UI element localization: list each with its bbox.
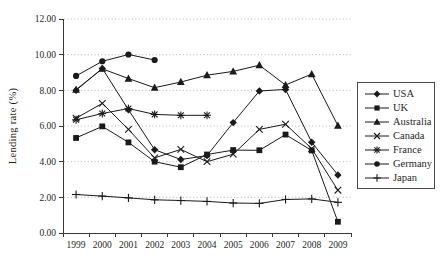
asterisk-marker-icon	[364, 144, 390, 156]
svg-text:2009: 2009	[328, 240, 347, 250]
svg-text:2000: 2000	[93, 240, 112, 250]
svg-text:12.00: 12.00	[35, 14, 57, 24]
circle-marker-icon	[364, 158, 390, 170]
legend-label: France	[393, 143, 422, 157]
svg-text:1999: 1999	[67, 240, 86, 250]
square-marker-icon	[364, 102, 390, 114]
legend-label: UK	[393, 101, 408, 115]
y-axis-label: Lending rate (%)	[7, 26, 21, 226]
legend-label: Germany	[393, 157, 432, 171]
series-germany	[73, 51, 158, 79]
legend-item-usa: USA	[364, 87, 430, 101]
svg-text:2006: 2006	[250, 240, 269, 250]
legend-item-france: France	[364, 143, 430, 157]
chart-panel: 0.002.004.006.008.0010.0012.001999200020…	[0, 0, 441, 266]
legend-item-japan: Japan	[364, 171, 430, 185]
legend-label: Japan	[393, 171, 417, 185]
svg-text:2002: 2002	[145, 240, 164, 250]
triangle-marker-icon	[364, 116, 390, 128]
legend-label: Australia	[393, 115, 432, 129]
svg-text:10.00: 10.00	[35, 50, 57, 60]
svg-text:6.00: 6.00	[39, 121, 56, 131]
svg-text:2001: 2001	[119, 240, 138, 250]
legend: USA UK Australia Canada France Germany J…	[357, 82, 435, 189]
svg-text:0.00: 0.00	[39, 228, 56, 238]
svg-text:2007: 2007	[276, 240, 295, 250]
diamond-marker-icon	[364, 88, 390, 100]
legend-item-germany: Germany	[364, 157, 430, 171]
svg-text:4.00: 4.00	[39, 157, 56, 167]
x-axis-ticks: 1999200020012002200320042005200620072008…	[63, 233, 351, 250]
legend-label: Canada	[393, 129, 425, 143]
svg-text:2.00: 2.00	[39, 193, 56, 203]
svg-text:2003: 2003	[171, 240, 190, 250]
svg-text:2005: 2005	[224, 240, 243, 250]
series-japan	[72, 190, 342, 207]
svg-text:8.00: 8.00	[39, 86, 56, 96]
legend-item-canada: Canada	[364, 129, 430, 143]
x-marker-icon	[364, 130, 390, 142]
legend-item-uk: UK	[364, 101, 430, 115]
plus-marker-icon	[364, 172, 390, 184]
legend-label: USA	[393, 87, 414, 101]
y-axis-ticks: 0.002.004.006.008.0010.0012.00	[35, 14, 63, 238]
legend-item-australia: Australia	[364, 115, 430, 129]
series-france	[72, 105, 211, 124]
svg-text:2008: 2008	[302, 240, 321, 250]
svg-text:2004: 2004	[198, 240, 217, 250]
